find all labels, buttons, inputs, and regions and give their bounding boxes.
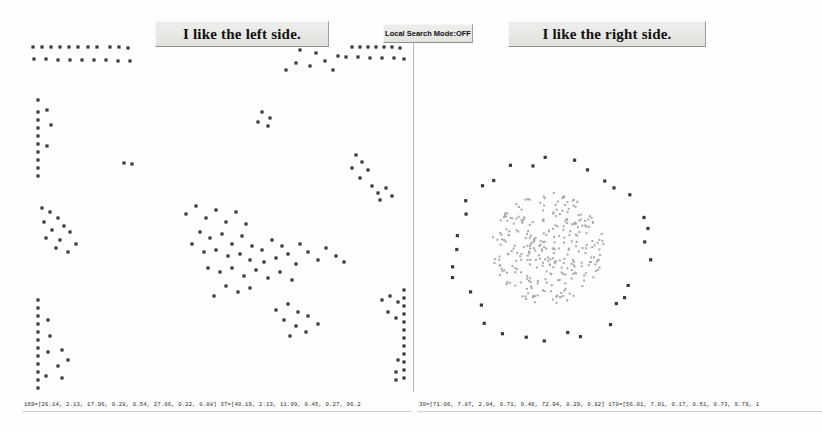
panel-divider: [413, 30, 414, 392]
left-scatter-points: [0, 0, 413, 432]
left-scatter-panel[interactable]: [0, 0, 413, 432]
right-panel-title-banner: I like the right side.: [508, 21, 706, 47]
left-panel-title: I like the left side.: [183, 26, 301, 43]
left-status-readout: 169=[26.14, 2.13, 17.96, 0.28, 0.54, 27.…: [24, 401, 412, 408]
local-search-mode-label: Local Search Mode:OFF: [385, 29, 471, 38]
right-panel-title: I like the right side.: [543, 26, 672, 43]
right-status-readout: 30=[71.06, 7.87, 2.04, 0.71, 0.46, 72.94…: [419, 401, 822, 408]
local-search-mode-banner[interactable]: Local Search Mode:OFF: [383, 24, 473, 43]
right-plot-area[interactable]: [414, 0, 822, 432]
application-window: I like the left side. Local Search Mode:…: [0, 0, 822, 432]
right-scatter-points: [414, 0, 822, 432]
left-panel-title-banner: I like the left side.: [155, 21, 329, 47]
left-plot-area[interactable]: [0, 0, 413, 432]
right-status-rule: [418, 411, 822, 412]
right-scatter-panel[interactable]: [414, 0, 822, 432]
left-status-rule: [22, 411, 412, 412]
